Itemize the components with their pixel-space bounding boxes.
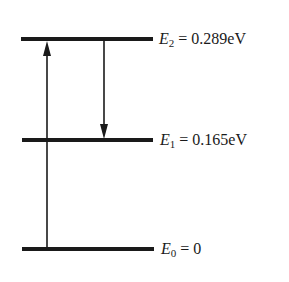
emission-arrow xyxy=(100,39,108,139)
level-label-e2: E2 = 0.289eV xyxy=(159,31,246,51)
level-label-e1: E1 = 0.165eV xyxy=(160,132,247,152)
level-label-e0: E0 = 0 xyxy=(161,241,201,261)
absorption-arrow xyxy=(43,41,51,249)
